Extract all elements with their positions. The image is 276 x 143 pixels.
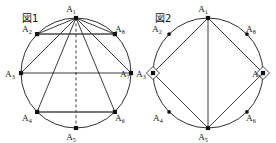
figure-1-label-A6: A6 (115, 113, 125, 124)
figure-1-label-A4: A4 (22, 113, 32, 124)
figure-2-vertex-A5 (206, 126, 210, 130)
figure-1-label-A1: A1 (66, 4, 76, 15)
figure-2-vertex-A3 (151, 71, 155, 75)
geometry-diagram-svg: A1A2A3A4A5A6A7A8図1A1A2A3A4A5A6A7A8図2 (0, 0, 276, 143)
figure-1-caption: 図1 (22, 13, 38, 24)
figure-2-vertex-A4 (167, 110, 171, 114)
figure-1-vertex-A4 (35, 110, 39, 114)
figure-1-vertex-A5 (74, 126, 78, 130)
figure-2-label-A2: A2 (152, 24, 162, 35)
figure-2-edge-A7-A1 (208, 18, 263, 73)
figure-2-caption: 図2 (155, 13, 171, 24)
figure-1-label-A2: A2 (22, 24, 32, 35)
figure-1-vertex-A1 (74, 16, 78, 20)
figure-2-vertex-A1 (206, 16, 210, 20)
figure-1-label-A3: A3 (5, 69, 15, 80)
figure-1-vertex-A3 (19, 71, 23, 75)
figure-2-vertex-A2 (167, 32, 171, 36)
figure-2: A1A2A3A4A5A6A7A8図2 (136, 4, 270, 143)
figure-2-label-A1: A1 (198, 4, 208, 15)
figure-1-vertex-A2 (35, 32, 39, 36)
figure-1-label-A8: A8 (115, 24, 125, 35)
figure-2-label-A5: A5 (198, 132, 208, 143)
figure-1-label-A5: A5 (66, 132, 76, 143)
figure-1-edge-A1-A7 (76, 18, 131, 73)
figure-2-label-A6: A6 (246, 113, 256, 124)
geometry-figure-board: A1A2A3A4A5A6A7A8図1A1A2A3A4A5A6A7A8図2 (0, 0, 276, 143)
figure-1-edge-A1-A3 (21, 18, 76, 73)
figure-2-label-A8: A8 (246, 24, 256, 35)
figure-2-edge-A1-A3 (153, 18, 208, 73)
figure-2-label-A4: A4 (153, 113, 163, 124)
figure-1: A1A2A3A4A5A6A7A8図1 (5, 4, 133, 143)
figure-2-label-A3: A3 (136, 69, 146, 80)
